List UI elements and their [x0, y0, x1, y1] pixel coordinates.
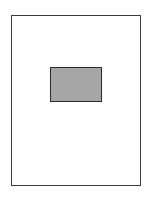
diagram-canvas	[0, 0, 150, 207]
stippled-block	[50, 67, 102, 102]
